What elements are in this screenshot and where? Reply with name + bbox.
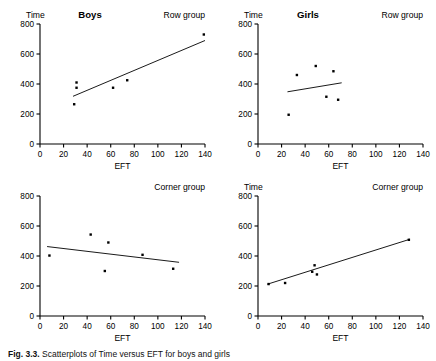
figure-caption-number: Fig. 3.3.	[8, 349, 40, 359]
svg-text:40: 40	[301, 150, 311, 159]
svg-text:800: 800	[238, 20, 252, 29]
svg-text:40: 40	[83, 322, 93, 331]
svg-text:0: 0	[29, 140, 34, 149]
scatter-plot-girls-corner: 0200400600800020406080100120140EFTTimeCo…	[218, 180, 436, 350]
scatter-plot-boys-row: 0200400600800020406080100120140EFTTimeBo…	[0, 0, 218, 180]
svg-text:Time: Time	[244, 10, 263, 20]
panel-girls-row-group: 0200400600800020406080100120140EFTTimeGi…	[218, 0, 436, 180]
data-point	[141, 254, 143, 256]
svg-text:120: 120	[393, 322, 407, 331]
data-point	[332, 70, 334, 72]
data-point	[73, 103, 75, 105]
svg-text:0: 0	[38, 150, 43, 159]
panel-boys-row-group: 0200400600800020406080100120140EFTTimeBo…	[0, 0, 218, 180]
svg-text:60: 60	[324, 150, 334, 159]
data-point	[337, 99, 339, 101]
svg-text:140: 140	[416, 322, 430, 331]
svg-text:0: 0	[247, 140, 252, 149]
svg-text:800: 800	[238, 192, 252, 201]
panel-boys-corner-group: 0200400600800020406080100120140EFTCorner…	[0, 180, 218, 350]
panel-girls-corner-group: 0200400600800020406080100120140EFTTimeCo…	[218, 180, 436, 350]
data-point	[112, 87, 114, 89]
svg-text:Boys: Boys	[78, 9, 101, 20]
svg-text:Time: Time	[26, 10, 45, 20]
svg-text:0: 0	[256, 322, 261, 331]
svg-text:Girls: Girls	[297, 9, 319, 20]
svg-text:200: 200	[20, 110, 34, 119]
svg-text:80: 80	[348, 322, 358, 331]
data-point	[172, 268, 174, 270]
svg-text:800: 800	[20, 192, 34, 201]
data-point	[48, 254, 50, 256]
svg-text:120: 120	[175, 150, 189, 159]
svg-text:120: 120	[175, 322, 189, 331]
svg-text:400: 400	[238, 252, 252, 261]
svg-text:400: 400	[20, 80, 34, 89]
svg-text:400: 400	[238, 80, 252, 89]
svg-text:EFT: EFT	[114, 333, 131, 343]
figure-panel-grid: 0200400600800020406080100120140EFTTimeBo…	[0, 0, 436, 361]
data-point	[296, 74, 298, 76]
data-point	[126, 79, 128, 81]
figure-caption: Fig. 3.3. Scatterplots of Time versus EF…	[8, 349, 428, 360]
svg-text:140: 140	[198, 150, 212, 159]
svg-text:200: 200	[238, 110, 252, 119]
data-point	[75, 87, 77, 89]
svg-text:100: 100	[369, 150, 383, 159]
data-point	[315, 65, 317, 67]
svg-text:800: 800	[20, 20, 34, 29]
svg-text:140: 140	[198, 322, 212, 331]
svg-text:100: 100	[151, 150, 165, 159]
svg-text:600: 600	[238, 50, 252, 59]
figure-caption-text: Scatterplots of Time versus EFT for boys…	[42, 349, 230, 359]
svg-text:80: 80	[130, 150, 140, 159]
data-point	[311, 271, 313, 273]
svg-text:400: 400	[20, 252, 34, 261]
data-point	[267, 283, 269, 285]
data-point	[107, 241, 109, 243]
scatter-plot-boys-corner: 0200400600800020406080100120140EFTCorner…	[0, 180, 218, 350]
svg-text:Time: Time	[244, 182, 263, 192]
data-point	[313, 264, 315, 266]
svg-text:100: 100	[151, 322, 165, 331]
svg-text:Corner group: Corner group	[372, 182, 423, 192]
svg-text:40: 40	[301, 322, 311, 331]
svg-text:600: 600	[238, 222, 252, 231]
svg-text:EFT: EFT	[114, 161, 131, 171]
svg-text:0: 0	[29, 312, 34, 321]
svg-text:60: 60	[106, 150, 116, 159]
svg-text:EFT: EFT	[332, 333, 349, 343]
svg-text:200: 200	[238, 282, 252, 291]
data-point	[75, 81, 77, 83]
data-point	[203, 33, 205, 35]
svg-text:80: 80	[130, 322, 140, 331]
data-point	[316, 273, 318, 275]
svg-text:0: 0	[256, 150, 261, 159]
data-point	[408, 239, 410, 241]
svg-text:20: 20	[277, 150, 287, 159]
svg-text:Row group: Row group	[381, 10, 423, 20]
svg-text:60: 60	[324, 322, 334, 331]
svg-text:600: 600	[20, 222, 34, 231]
svg-text:140: 140	[416, 150, 430, 159]
svg-text:20: 20	[59, 150, 69, 159]
data-point	[325, 96, 327, 98]
svg-text:80: 80	[348, 150, 358, 159]
svg-text:120: 120	[393, 150, 407, 159]
svg-text:Row group: Row group	[163, 10, 205, 20]
svg-text:40: 40	[83, 150, 93, 159]
data-point	[89, 233, 91, 235]
data-point	[284, 282, 286, 284]
svg-text:60: 60	[106, 322, 116, 331]
svg-text:20: 20	[59, 322, 69, 331]
svg-text:0: 0	[247, 312, 252, 321]
data-point	[287, 114, 289, 116]
svg-text:600: 600	[20, 50, 34, 59]
svg-text:20: 20	[277, 322, 287, 331]
svg-text:EFT: EFT	[332, 161, 349, 171]
svg-text:200: 200	[20, 282, 34, 291]
scatter-plot-girls-row: 0200400600800020406080100120140EFTTimeGi…	[218, 0, 436, 180]
svg-text:0: 0	[38, 322, 43, 331]
svg-text:100: 100	[369, 322, 383, 331]
data-point	[104, 270, 106, 272]
